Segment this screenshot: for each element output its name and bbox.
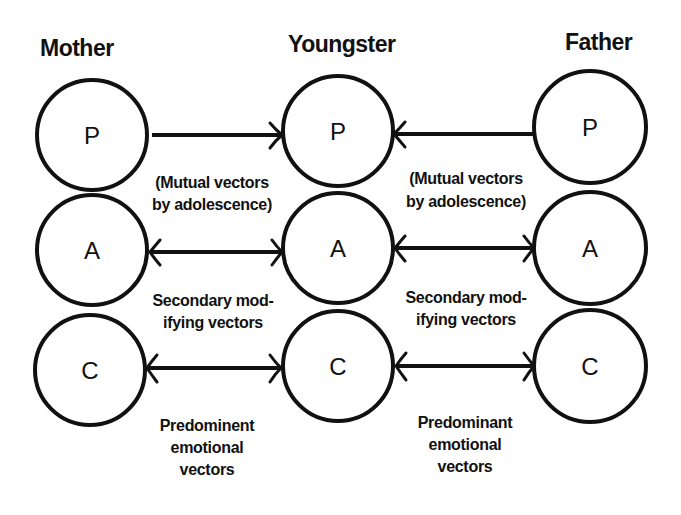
- right-a-note-line1: Secondary mod-: [405, 289, 526, 306]
- right-p-note-line1: (Mutual vectors: [409, 170, 523, 187]
- mother-c-letter: C: [81, 357, 98, 384]
- youngster-adult-node: A: [283, 193, 393, 303]
- mother-youngster-a-double-arrow: [150, 240, 282, 265]
- right-a-note-line2: ifying vectors: [416, 311, 516, 328]
- father-child-node: C: [534, 310, 646, 422]
- youngster-c-letter: C: [329, 353, 346, 380]
- youngster-a-letter: A: [330, 235, 346, 262]
- mother-adult-node: A: [37, 195, 147, 305]
- father-youngster-c-double-arrow: [396, 353, 534, 380]
- left-p-note-line2: by adolescence): [152, 196, 272, 213]
- right-c-note-line3: vectors: [438, 458, 493, 475]
- right-c-note-line1: Predominant: [418, 414, 513, 431]
- mother-youngster-c-double-arrow: [147, 355, 281, 382]
- mother-p-letter: P: [84, 122, 100, 149]
- left-p-note-line1: (Mutual vectors: [155, 174, 269, 191]
- mother-header: Mother: [40, 35, 114, 61]
- father-a-letter: A: [582, 235, 598, 262]
- youngster-p-letter: P: [330, 118, 346, 145]
- youngster-parent-node: P: [283, 76, 393, 186]
- pac-vector-diagram: Mother Youngster Father P A C P A C P A …: [0, 0, 681, 515]
- father-youngster-a-double-arrow: [395, 236, 534, 261]
- youngster-child-node: C: [283, 311, 393, 421]
- mother-a-letter: A: [84, 237, 100, 264]
- father-to-youngster-p-arrow: [394, 122, 534, 147]
- right-c-note-line2: emotional: [429, 436, 502, 453]
- left-c-note-line1: Predominent: [160, 417, 255, 434]
- father-parent-node: P: [534, 71, 646, 183]
- father-c-letter: C: [581, 353, 598, 380]
- left-c-note-line3: vectors: [180, 461, 235, 478]
- father-adult-node: A: [534, 192, 646, 304]
- left-a-note-line1: Secondary mod-: [152, 292, 273, 309]
- mother-to-youngster-p-arrow: [152, 123, 282, 148]
- left-c-note-line2: emotional: [171, 439, 244, 456]
- left-a-note-line2: ifying vectors: [163, 314, 263, 331]
- mother-child-node: C: [35, 315, 145, 425]
- father-p-letter: P: [582, 114, 598, 141]
- youngster-header: Youngster: [288, 31, 396, 57]
- right-p-note-line2: by adolescence): [406, 193, 526, 210]
- father-header: Father: [565, 29, 633, 55]
- mother-parent-node: P: [37, 80, 147, 190]
